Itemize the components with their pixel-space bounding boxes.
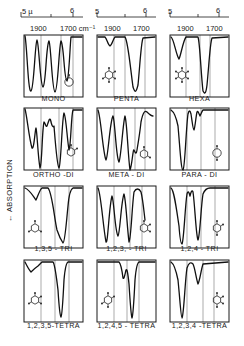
spectrum-panel-1-2-3-5-tetra [24, 260, 83, 322]
spectrum-panel-1-2-4-tri [170, 186, 229, 248]
absorption-curve [25, 36, 82, 92]
absorption-curve [98, 188, 145, 242]
wavenumber-right: 1700 [133, 24, 150, 33]
panel-label: META - DI [108, 170, 144, 179]
panel-label: PARA - DI [182, 170, 218, 179]
benzene-ring-icon [213, 292, 224, 308]
absorption-curve [171, 188, 228, 244]
benzene-ring-icon [28, 292, 42, 304]
top-axis-col2: 5 6 1900 1700 [95, 6, 156, 33]
panel-label: 1,2,3,4 -TETRA [172, 321, 228, 330]
absorption-curve [171, 262, 228, 318]
panel-frame [97, 108, 156, 170]
benzene-ring-icon [101, 292, 115, 308]
absorption-curve [98, 37, 155, 91]
micron-end: 6 [70, 6, 74, 15]
wavenumber-right: 1700 [206, 24, 223, 33]
spectrum-panel-meta-di [97, 108, 156, 170]
panel-frame [24, 108, 83, 170]
wavenumber-left: 1900 [177, 24, 194, 33]
absorption-curve [98, 262, 155, 318]
top-axis-col3: 5 6 1900 1700 [168, 6, 229, 33]
spectrum-panel-penta [97, 35, 156, 97]
micron-start: 5 [95, 7, 99, 16]
absorption-curve [25, 188, 82, 243]
spectrum-panel-hexa [170, 35, 229, 97]
micron-end: 6 [143, 6, 147, 15]
micron-start: 5 [168, 7, 172, 16]
benzene-ring-icon [175, 67, 189, 83]
top-axis-col1: 5 µ 6 1900 1700 cm⁻¹ [21, 6, 96, 33]
y-axis-label: ← ABSORPTION [5, 159, 14, 222]
micron-start: 5 µ [22, 7, 33, 16]
benzene-ring-icon [213, 145, 221, 161]
spectra-panels: MONOPENTAHEXAORTHO -DIMETA - DIPARA - DI… [24, 35, 229, 330]
wavenumber-right: 1700 cm⁻¹ [60, 24, 96, 33]
spectrum-panel-ortho-di [24, 108, 83, 170]
micron-end: 6 [216, 6, 220, 15]
panel-label: ORTHO -DI [33, 170, 74, 179]
panel-label: 1,2,3, - TRI [106, 244, 147, 253]
spectrum-panel-1-3-5-tri [24, 186, 83, 248]
benzene-ring-icon [28, 220, 42, 232]
panel-label: PENTA [114, 94, 139, 103]
panel-label: 1,3,5 - TRI [34, 244, 72, 253]
absorption-curve [25, 262, 82, 317]
panel-label: 1,2,4,5 - TETRA [98, 321, 156, 330]
panel-label: MONO [42, 94, 66, 103]
wavenumber-left: 1900 [30, 24, 47, 33]
panel-label: 1,2,4 - TRI [180, 244, 218, 253]
absorption-curve [171, 110, 228, 170]
spectrum-panel-1-2-4-5-tetra [97, 260, 156, 322]
absorption-curve [25, 109, 82, 168]
wavenumber-left: 1900 [104, 24, 121, 33]
panel-label: HEXA [189, 94, 210, 103]
spectrum-panel-mono [24, 35, 83, 97]
spectrum-panel-para-di [170, 108, 229, 170]
benzene-ring-icon [140, 146, 151, 158]
spectrum-panel-1-2-3-4-tetra [170, 260, 229, 322]
spectrum-panel-1-2-3-tri [97, 186, 156, 248]
infrared-spectra-figure: ← ABSORPTION 5 µ 6 1900 1700 cm⁻¹ 5 6 19… [0, 0, 244, 346]
panel-frame [170, 186, 229, 248]
panel-label: 1,2,3,5-TETRA [27, 321, 80, 330]
panel-frame [24, 260, 83, 322]
absorption-curve [171, 37, 228, 93]
